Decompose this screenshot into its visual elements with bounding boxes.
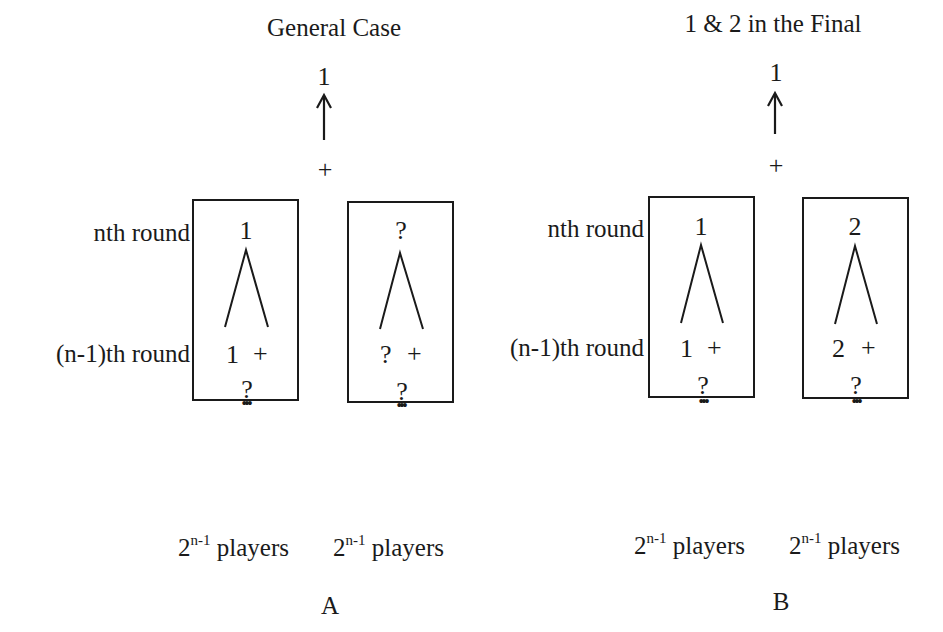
players-word: players	[828, 532, 900, 559]
panel-b-box-right-ellipsis: •••	[852, 394, 861, 410]
players-word: players	[673, 532, 745, 559]
players-base: 2	[634, 532, 647, 559]
panel-b-box-right-mid: 2	[832, 334, 845, 364]
panel-b-box-right-plus: +	[861, 333, 876, 363]
panel-b-players-right: 2n-1 players	[789, 532, 900, 560]
panel-b-letter: B	[773, 588, 790, 616]
panel-b-players-left: 2n-1 players	[634, 532, 745, 560]
players-base: 2	[789, 532, 802, 559]
players-exponent: n-1	[647, 530, 667, 546]
players-exponent: n-1	[802, 530, 822, 546]
